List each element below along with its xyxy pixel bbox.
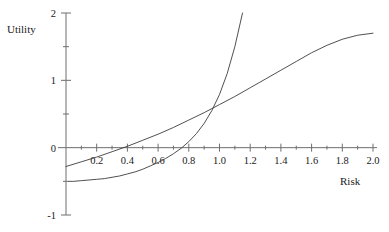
utility-risk-chart: Utility Risk 0.20.40.60.81.01.21.41.61.8… xyxy=(0,0,389,232)
x-tick-label: 2.0 xyxy=(366,155,379,166)
x-tick-label: 1.0 xyxy=(213,155,226,166)
y-tick-label: 1 xyxy=(51,75,56,86)
plot-area: 0.20.40.60.81.01.21.41.61.82.0-1012 xyxy=(0,0,389,232)
x-tick-label: 0.8 xyxy=(182,155,195,166)
x-tick-label: 1.2 xyxy=(244,155,257,166)
x-tick-label: 0.4 xyxy=(121,155,135,166)
y-tick-label: 2 xyxy=(51,8,56,19)
x-tick-label: 1.8 xyxy=(336,155,349,166)
x-tick-label: 0.2 xyxy=(90,155,103,166)
y-tick-label: -1 xyxy=(47,210,56,221)
x-tick-label: 1.4 xyxy=(274,155,288,166)
x-tick-label: 1.6 xyxy=(305,155,318,166)
y-tick-label: 0 xyxy=(51,143,56,154)
